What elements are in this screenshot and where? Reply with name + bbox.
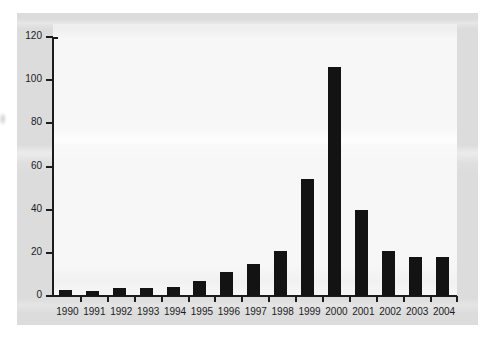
x-axis-tick-label: 1995 xyxy=(187,306,217,317)
bar xyxy=(220,272,233,296)
y-axis-tick xyxy=(46,79,53,81)
y-axis-tick xyxy=(46,122,53,124)
x-axis-tick-label: 2000 xyxy=(321,306,351,317)
bar xyxy=(274,251,287,296)
bar xyxy=(167,287,180,296)
y-axis-tick xyxy=(46,295,53,297)
y-axis-tick xyxy=(46,166,53,168)
x-axis-tick-label: 2003 xyxy=(402,306,432,317)
y-axis-tick xyxy=(46,252,53,254)
bar xyxy=(409,257,422,296)
x-axis-tick xyxy=(107,296,109,302)
x-axis-tick xyxy=(268,296,270,302)
x-axis-tick-label: 1998 xyxy=(268,306,298,317)
y-axis-tick-label: 80 xyxy=(8,117,42,127)
x-axis-tick xyxy=(376,296,378,302)
y-axis-tick-label: 100 xyxy=(8,74,42,84)
x-axis-tick xyxy=(349,296,351,302)
x-axis-tick xyxy=(188,296,190,302)
bar xyxy=(59,290,72,296)
x-axis-tick xyxy=(80,296,82,302)
bar xyxy=(328,67,341,296)
x-axis-tick-label: 1996 xyxy=(214,306,244,317)
x-axis-tick-label: 1993 xyxy=(133,306,163,317)
x-axis-tick xyxy=(214,296,216,302)
x-axis-tick-label: 2001 xyxy=(348,306,378,317)
x-axis-tick-label: 1990 xyxy=(52,306,82,317)
bar xyxy=(86,291,99,296)
y-axis-tick-label: 60 xyxy=(8,161,42,171)
y-axis-tick-label: 120 xyxy=(8,31,42,41)
x-axis-tick-label: 1999 xyxy=(295,306,325,317)
x-axis-tick xyxy=(241,296,243,302)
bar xyxy=(382,251,395,296)
bar xyxy=(436,257,449,296)
x-axis-tick xyxy=(134,296,136,302)
bar xyxy=(301,179,314,296)
bar xyxy=(193,281,206,296)
x-axis-tick-label: 1994 xyxy=(160,306,190,317)
bar xyxy=(247,264,260,296)
x-axis-tick-label: 2004 xyxy=(429,306,459,317)
bar xyxy=(113,288,126,296)
x-axis-tick xyxy=(456,296,458,302)
plot-area xyxy=(53,24,457,296)
x-axis-tick-label: 2002 xyxy=(375,306,405,317)
x-axis-tick xyxy=(430,296,432,302)
scan-artifact xyxy=(0,112,7,126)
y-axis-tick xyxy=(46,36,53,38)
y-axis-tick xyxy=(46,209,53,211)
bar xyxy=(140,288,153,296)
x-axis-tick-label: 1992 xyxy=(106,306,136,317)
x-axis-tick-label: 1997 xyxy=(241,306,271,317)
x-axis-tick xyxy=(295,296,297,302)
y-axis-tick-label: 20 xyxy=(8,247,42,257)
x-axis-tick xyxy=(403,296,405,302)
x-axis-tick xyxy=(322,296,324,302)
x-axis-tick xyxy=(161,296,163,302)
y-axis-tick-label: 0 xyxy=(8,290,42,300)
bar xyxy=(355,210,368,296)
x-axis-tick-label: 1991 xyxy=(79,306,109,317)
y-axis-tick-label: 40 xyxy=(8,204,42,214)
